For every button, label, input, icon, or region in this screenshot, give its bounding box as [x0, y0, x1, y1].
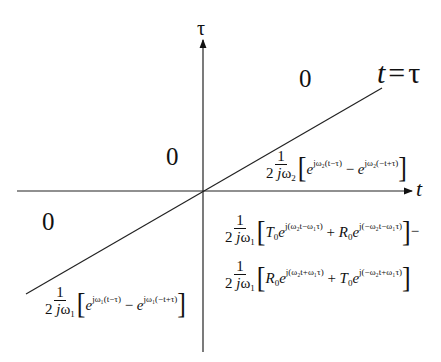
region-zero-top-right: 0: [299, 66, 312, 91]
fraction: 1 2 jω1: [225, 258, 255, 297]
boundary-line-label: t=τ: [377, 58, 420, 88]
region-zero-bottom-left: 0: [42, 209, 55, 234]
fraction: 1 2 jω2: [266, 148, 296, 187]
tau-axis-label: τ: [197, 18, 205, 38]
formula-quadrant1: 1 2 jω2 [ ejω₂(t−τ) − ejω₂(−t+τ) ]: [266, 148, 407, 187]
formula-quadrant3: 1 2 jω1 [ ejω₁(t−τ) − ejω₁(−t+τ) ]: [45, 284, 186, 323]
t-axis-label: t: [416, 178, 422, 200]
fraction: 1 2 jω1: [45, 284, 75, 323]
region-zero-top-left: 0: [166, 144, 179, 169]
fraction: 1 2 jω1: [225, 212, 255, 251]
formula-quadrant4-line1: 1 2 jω1 [ T0ej(ω₂t−ω₁τ) + R0ej(−ω₂t−ω₁τ)…: [225, 212, 419, 251]
formula-quadrant4-line2: 1 2 jω1 [ R0ej(ω₂t+ω₁τ) + T0ej(−ω₂t+ω₁τ)…: [225, 258, 411, 297]
